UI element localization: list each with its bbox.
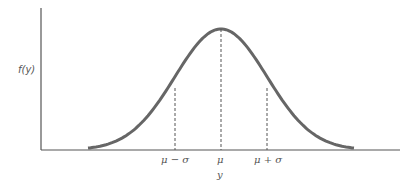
tick-label-mu-minus-sigma: μ − σ (161, 154, 189, 165)
tick-label-mu-plus-sigma: μ + σ (254, 154, 282, 165)
tick-label-mu: μ (217, 154, 224, 165)
x-axis-label: y (217, 169, 223, 180)
normal-curve-diagram (0, 0, 415, 194)
y-axis-label: f(y) (18, 64, 35, 75)
